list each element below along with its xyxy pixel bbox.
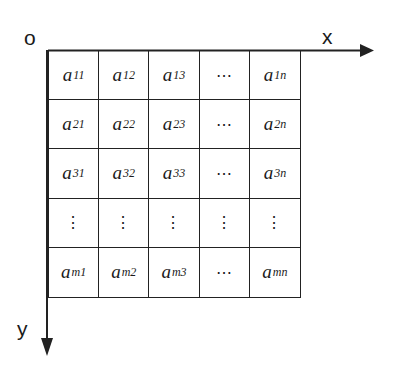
element-subscript: 2n xyxy=(274,117,286,132)
x-axis-label: x xyxy=(322,26,333,47)
matrix-cell: a22 xyxy=(99,100,149,149)
element-subscript: 12 xyxy=(123,68,135,83)
element-base: a xyxy=(62,162,72,184)
vertical-ellipsis-icon: ⋮ xyxy=(266,213,283,232)
element-subscript: m1 xyxy=(72,265,87,280)
matrix-cell: a32 xyxy=(99,149,149,198)
element-base: a xyxy=(264,113,274,135)
vertical-ellipsis-icon: ⋮ xyxy=(216,213,233,232)
matrix-cell: a33 xyxy=(149,149,199,198)
matrix-cell: ⋮ xyxy=(149,199,199,248)
matrix-cell: ⋯ xyxy=(200,51,250,100)
element-subscript: 23 xyxy=(173,117,185,132)
element-base: a xyxy=(63,64,73,86)
y-axis-label: y xyxy=(17,318,28,339)
element-subscript: m3 xyxy=(172,265,187,280)
element-base: a xyxy=(113,64,123,86)
matrix-cell: a3n xyxy=(250,149,300,198)
matrix-cell: ⋯ xyxy=(200,149,250,198)
y-axis-arrow-icon xyxy=(41,338,53,356)
element-base: a xyxy=(264,162,274,184)
element-subscript: mn xyxy=(273,265,288,280)
element-base: a xyxy=(264,64,274,86)
matrix-cell: ⋮ xyxy=(49,199,99,248)
horizontal-ellipsis-icon: ⋯ xyxy=(216,66,233,85)
horizontal-ellipsis-icon: ⋯ xyxy=(216,263,233,282)
element-base: a xyxy=(61,261,71,283)
matrix-cell: ⋮ xyxy=(99,199,149,248)
vertical-ellipsis-icon: ⋮ xyxy=(115,213,132,232)
matrix-cell: ⋯ xyxy=(200,248,250,297)
element-subscript: 21 xyxy=(73,117,85,132)
element-base: a xyxy=(113,113,123,135)
matrix-cell: a21 xyxy=(49,100,99,149)
matrix-cell: a23 xyxy=(149,100,199,149)
element-base: a xyxy=(111,261,121,283)
element-base: a xyxy=(113,162,123,184)
element-subscript: 33 xyxy=(173,166,185,181)
element-subscript: 11 xyxy=(73,68,84,83)
matrix-cell: a31 xyxy=(49,149,99,198)
horizontal-ellipsis-icon: ⋯ xyxy=(216,164,233,183)
element-base: a xyxy=(262,261,272,283)
origin-label: o xyxy=(24,27,36,48)
element-base: a xyxy=(163,162,173,184)
matrix-cell: a13 xyxy=(149,51,199,100)
horizontal-ellipsis-icon: ⋯ xyxy=(216,115,233,134)
matrix-grid: a11a12a13⋯a1na21a22a23⋯a2na31a32a33⋯a3n⋮… xyxy=(48,50,301,298)
element-subscript: 32 xyxy=(123,166,135,181)
matrix-cell: ⋮ xyxy=(250,199,300,248)
matrix-cell: amn xyxy=(250,248,300,297)
matrix-cell: a12 xyxy=(99,51,149,100)
element-base: a xyxy=(62,113,72,135)
element-subscript: 1n xyxy=(274,68,286,83)
element-subscript: 3n xyxy=(274,166,286,181)
element-subscript: 22 xyxy=(123,117,135,132)
matrix-cell: ⋯ xyxy=(200,100,250,149)
matrix-cell: a1n xyxy=(250,51,300,100)
matrix-cell: am2 xyxy=(99,248,149,297)
matrix-cell: a2n xyxy=(250,100,300,149)
matrix-cell: ⋮ xyxy=(200,199,250,248)
element-subscript: 13 xyxy=(173,68,185,83)
element-subscript: m2 xyxy=(122,265,137,280)
x-axis-arrow-icon xyxy=(360,44,374,57)
vertical-ellipsis-icon: ⋮ xyxy=(65,213,82,232)
matrix-cell: am1 xyxy=(49,248,99,297)
matrix-cell: am3 xyxy=(149,248,199,297)
vertical-ellipsis-icon: ⋮ xyxy=(165,213,182,232)
matrix-coordinate-diagram: o x y a11a12a13⋯a1na21a22a23⋯a2na31a32a3… xyxy=(0,0,398,380)
element-base: a xyxy=(163,64,173,86)
element-base: a xyxy=(163,113,173,135)
element-base: a xyxy=(161,261,171,283)
matrix-cell: a11 xyxy=(49,51,99,100)
element-subscript: 31 xyxy=(73,166,85,181)
